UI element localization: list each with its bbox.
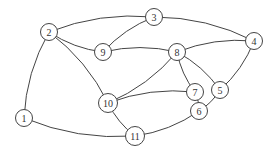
node-2: 2 <box>41 24 58 41</box>
edge-8-9 <box>103 48 177 52</box>
node-label: 4 <box>252 36 257 47</box>
node-3: 3 <box>146 9 163 26</box>
node-8: 8 <box>169 44 186 61</box>
graph-diagram: 1234567891011 <box>0 0 266 151</box>
node-4: 4 <box>246 33 263 50</box>
node-label: 3 <box>152 12 157 23</box>
node-label: 9 <box>101 47 106 58</box>
node-10: 10 <box>99 94 118 113</box>
node-7: 7 <box>187 84 204 101</box>
node-label: 5 <box>218 85 223 96</box>
node-label: 8 <box>175 47 180 58</box>
node-label: 2 <box>47 27 52 38</box>
node-label: 6 <box>197 106 202 117</box>
node-5: 5 <box>212 82 229 99</box>
node-9: 9 <box>95 44 112 61</box>
node-6: 6 <box>191 103 208 120</box>
edge-1-2 <box>24 32 49 118</box>
node-label: 10 <box>103 98 113 109</box>
edge-3-9 <box>103 17 154 52</box>
edge-6-11 <box>135 111 199 136</box>
edge-2-10 <box>49 32 108 103</box>
edge-1-11 <box>24 118 135 137</box>
edge-8-10 <box>108 52 177 103</box>
node-label: 7 <box>193 87 198 98</box>
edge-4-8 <box>177 40 254 52</box>
node-label: 11 <box>130 131 140 142</box>
edges-layer <box>24 16 254 137</box>
node-1: 1 <box>16 110 33 127</box>
edge-3-4 <box>154 17 254 41</box>
node-label: 1 <box>22 113 27 124</box>
node-11: 11 <box>126 127 145 146</box>
